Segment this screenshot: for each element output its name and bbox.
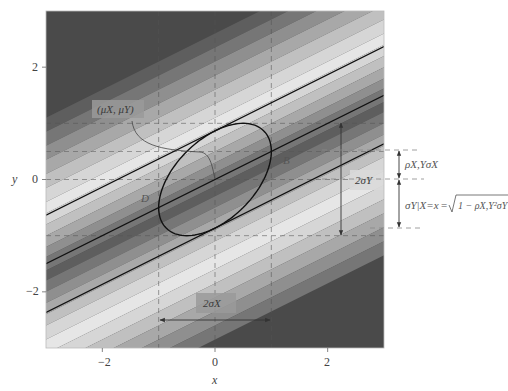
rho-sigma-label: ρX,YσX (404, 158, 439, 170)
cond-sigma-rhs: 1 − ρX,Y²σY (458, 200, 508, 211)
cond-sigma-lhs: σY|X=x (405, 199, 439, 211)
mu-label: (μX, μY) (97, 103, 134, 116)
y-tick-label: 2 (32, 60, 38, 74)
y-tick-label: −2 (26, 284, 39, 298)
point-b-label: B (283, 154, 290, 166)
two-sigma-y-label: 2σY (355, 174, 374, 186)
two-sigma-x-label: 2σX (203, 297, 222, 309)
x-tick-label: 2 (324, 355, 330, 369)
chart: (μX, μY) B D 2σX 2σY ρX,YσX σY|X=x = 1 −… (0, 0, 508, 391)
x-tick-label: 0 (212, 355, 218, 369)
y-axis-label: y (11, 172, 18, 186)
x-tick-label: −2 (98, 355, 111, 369)
y-tick-label: 0 (32, 172, 38, 186)
cond-sigma-eq: = (441, 199, 447, 211)
x-axis-label: x (211, 373, 218, 387)
point-d-label: D (140, 192, 149, 204)
